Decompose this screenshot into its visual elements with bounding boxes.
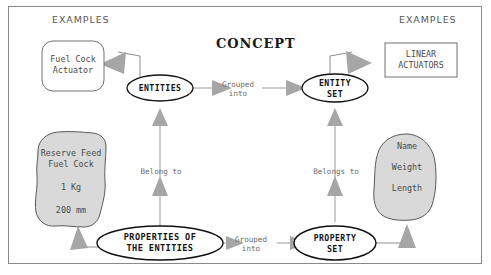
node-label-reserve-feed-blob[interactable]: Reserve Feed Fuel Cock 1 Kg 200 mm: [34, 148, 108, 216]
node-label-properties-of-the-entities[interactable]: PROPERTIES OF THE ENTITIES: [97, 232, 223, 254]
node-label-entity-set[interactable]: ENTITY SET: [302, 78, 368, 99]
examples-label-left: EXAMPLES: [52, 14, 109, 25]
node-label-linear-actuators[interactable]: LINEAR ACTUATORS: [385, 49, 457, 72]
node-label-entities[interactable]: ENTITIES: [127, 83, 193, 94]
page-title: CONCEPT: [216, 36, 296, 51]
edge-label-grouped-into-top: Grouped into: [215, 80, 261, 99]
examples-label-right: EXAMPLES: [399, 14, 456, 25]
edge-label-belongs-to: Belongs to: [303, 167, 369, 176]
node-label-fuel-cock-actuator[interactable]: Fuel Cock Actuator: [40, 54, 106, 77]
node-label-attributes-blob[interactable]: Name Weight Length: [372, 141, 442, 194]
edge-label-grouped-into-bottom: Grouped into: [228, 235, 274, 254]
node-label-property-set[interactable]: PROPERTY SET: [294, 233, 376, 254]
diagram-canvas: EXAMPLES EXAMPLES CONCEPT Fuel Cock Actu…: [0, 0, 491, 275]
edge-label-belong-to: Belong to: [130, 167, 192, 176]
